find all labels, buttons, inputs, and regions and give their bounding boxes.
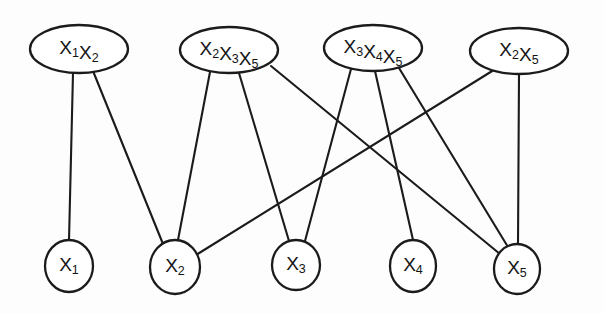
variable-node-X1[interactable]: X1	[45, 240, 93, 292]
edge-f1-v2	[93, 71, 163, 244]
edge-f4-v2	[196, 68, 497, 255]
edge-f2-v2	[178, 72, 210, 240]
factor-graph-canvas: X1X2X2X3X5X3X4X5X2X5X1X2X3X4X5	[0, 0, 604, 314]
edge-f2-v3	[239, 73, 289, 241]
variable-node-X3[interactable]: X3	[272, 240, 320, 290]
factor-node-X2X3X5[interactable]: X2X3X5	[180, 27, 278, 73]
variable-node-X5[interactable]: X5	[494, 244, 540, 294]
edge-f3-v3	[305, 69, 351, 241]
factor-node-X1X2[interactable]: X1X2	[30, 25, 128, 73]
edge-f4-v5	[518, 74, 519, 244]
edge-layer	[69, 66, 519, 255]
node-layer: X1X2X2X3X5X3X4X5X2X5X1X2X3X4X5	[30, 25, 568, 294]
factor-node-X2X5[interactable]: X2X5	[470, 28, 568, 74]
variable-node-X2[interactable]: X2	[150, 240, 200, 294]
factor-graph-diagram: X1X2X2X3X5X3X4X5X2X5X1X2X3X4X5	[0, 0, 604, 314]
edge-f1-v1	[69, 73, 73, 240]
factor-node-X3X4X5[interactable]: X3X4X5	[324, 25, 422, 71]
variable-node-X4[interactable]: X4	[390, 240, 436, 292]
edge-f2-v5	[271, 66, 500, 254]
